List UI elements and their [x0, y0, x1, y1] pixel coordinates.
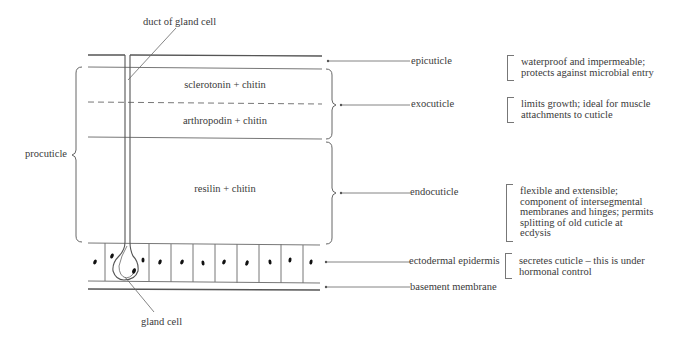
exocuticle-upper-content: sclerotonin + chitin — [184, 79, 266, 90]
procuticle-brace — [72, 67, 82, 242]
description-line: hormonal control — [519, 267, 645, 278]
layer-label-basement-membrane: basement membrane — [410, 281, 497, 292]
exocuticle-top-line — [88, 67, 322, 69]
exocuticle-lower-content: arthropodin + chitin — [183, 115, 267, 126]
epidermis-top-line — [88, 243, 320, 245]
procuticle-label: procuticle — [25, 148, 67, 159]
gland-duct — [113, 55, 138, 280]
epicuticle-surface-right — [130, 55, 322, 56]
endocuticle-top-line — [88, 137, 322, 139]
exocuticle-dashed-line — [88, 102, 322, 104]
description-line: waterproof and impermeable; — [521, 57, 654, 68]
exocuticle-brace — [326, 69, 336, 139]
layer-label-endocuticle: endocuticle — [410, 186, 458, 197]
description-line: attachments to cuticle — [521, 110, 650, 121]
description-line: limits growth; ideal for muscle — [521, 99, 650, 110]
description-bracket-exocuticle — [507, 97, 514, 123]
epidermis-bottom-line — [88, 281, 320, 283]
pointer-lines — [125, 28, 410, 312]
description-line: secretes cuticle – this is under — [519, 256, 645, 267]
basement-membrane-line — [88, 289, 320, 290]
layer-label-epicuticle: epicuticle — [411, 55, 452, 66]
description-line: protects against microbial entry — [521, 68, 654, 79]
description-bracket-endocuticle — [506, 184, 513, 242]
description-exocuticle: limits growth; ideal for muscle attachme… — [521, 99, 650, 120]
description-line: membranes and hinges; permits — [520, 207, 653, 218]
duct-label: duct of gland cell — [143, 16, 216, 27]
epidermis-nuclei — [92, 253, 313, 274]
description-endocuticle: flexible and extensible; component of in… — [520, 186, 653, 239]
gland-cell-label: gland cell — [141, 316, 182, 327]
description-epicuticle: waterproof and impermeable; protects aga… — [521, 57, 654, 78]
description-bracket-epicuticle — [507, 55, 514, 81]
description-bracket-epidermis — [505, 253, 512, 279]
cuticle-diagram — [0, 0, 686, 339]
description-epidermis: secretes cuticle – this is under hormona… — [519, 256, 645, 277]
description-line: flexible and extensible; — [520, 186, 653, 197]
endocuticle-content: resilin + chitin — [194, 183, 255, 194]
layer-label-exocuticle: exocuticle — [411, 98, 454, 109]
endocuticle-brace — [326, 142, 336, 244]
description-line: ecdysis — [520, 228, 653, 239]
layer-label-ectodermal-epidermis: ectodermal epidermis — [409, 255, 500, 266]
